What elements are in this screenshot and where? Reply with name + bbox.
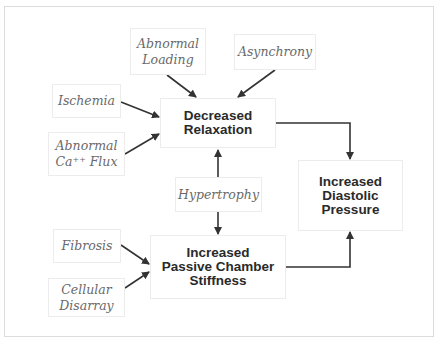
ischemia-label: Ischemia (58, 93, 115, 109)
abnormal-ca-flux-box: Abnormal Ca⁺⁺ Flux (48, 132, 125, 176)
fibrosis-label: Fibrosis (61, 238, 112, 254)
increased-diastolic-pressure-label: Increased Diastolic Pressure (319, 175, 382, 217)
abnormal-ca-flux-label: Abnormal Ca⁺⁺ Flux (56, 138, 118, 170)
fibrosis-box: Fibrosis (53, 229, 121, 263)
cellular-disarray-box: Cellular Disarray (48, 278, 125, 317)
asynchrony-box: Asynchrony (234, 34, 316, 70)
ischemia-box: Ischemia (52, 84, 121, 118)
decreased-relaxation-label: Decreased Relaxation (184, 109, 252, 137)
increased-diastolic-pressure-box: Increased Diastolic Pressure (298, 160, 403, 231)
hypertrophy-label: Hypertrophy (178, 187, 259, 203)
increased-passive-chamber-stiffness-label: Increased Passive Chamber Stiffness (162, 246, 275, 288)
increased-passive-chamber-stiffness-box: Increased Passive Chamber Stiffness (150, 235, 286, 299)
cellular-disarray-label: Cellular Disarray (59, 282, 113, 314)
hypertrophy-box: Hypertrophy (175, 177, 262, 212)
abnormal-loading-label: Abnormal Loading (137, 36, 199, 68)
abnormal-loading-box: Abnormal Loading (130, 28, 206, 75)
asynchrony-label: Asynchrony (238, 44, 312, 60)
decreased-relaxation-box: Decreased Relaxation (160, 98, 276, 148)
